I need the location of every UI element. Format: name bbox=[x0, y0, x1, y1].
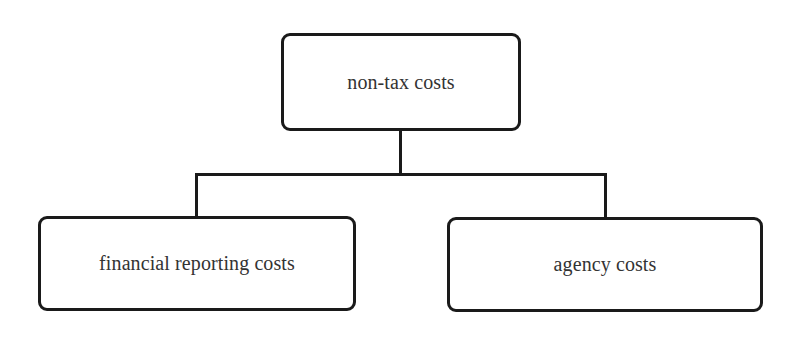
connector-horizontal-bar bbox=[195, 173, 607, 176]
connector-left-drop bbox=[195, 173, 198, 218]
connector-right-drop bbox=[604, 173, 607, 219]
node-label-financial-reporting-costs: financial reporting costs bbox=[99, 252, 295, 275]
node-agency-costs: agency costs bbox=[447, 217, 763, 312]
node-non-tax-costs: non-tax costs bbox=[281, 33, 521, 131]
connector-root-stem bbox=[399, 130, 402, 175]
node-label-agency-costs: agency costs bbox=[554, 253, 657, 276]
node-financial-reporting-costs: financial reporting costs bbox=[38, 216, 356, 311]
node-label-non-tax-costs: non-tax costs bbox=[347, 71, 454, 94]
